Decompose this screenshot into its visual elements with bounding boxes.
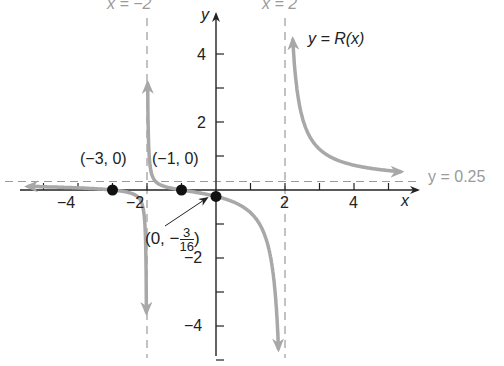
curve-branch [293,40,401,172]
asymptote-label-x-2: x = 2 [262,0,297,13]
x-tick-label-neg2: −2 [126,194,144,212]
curve-branch [148,84,279,349]
data-point [176,185,187,196]
x-tick-label-4: 4 [349,194,358,212]
asymptote-label-x-neg2: x = −2 [107,0,151,13]
rational-function-graph: x = −2 x = 2 y = 0.25 y = R(x) x y −4 −2… [0,0,504,366]
point-label-neg3-0: (−3, 0) [80,150,127,168]
y-tick-label-neg4: −4 [184,317,202,335]
fraction-denominator: 16 [180,240,194,253]
point-label-y-intercept: (0, −316) [145,226,200,253]
point-callout-arrow [165,198,207,226]
y-tick-label-2: 2 [197,114,206,132]
data-point [211,191,222,202]
point-label-neg1-0: (−1, 0) [152,150,199,168]
asymptote-label-y-0-25: y = 0.25 [428,168,485,186]
fraction-numerator: 3 [180,226,194,240]
fraction: 316 [180,226,194,253]
y-axis-label: y [201,6,209,24]
point-label-suffix: ) [194,229,200,248]
point-label-prefix: (0, − [145,229,180,248]
y-tick-label-4: 4 [197,46,206,64]
data-point [107,185,118,196]
x-tick-label-neg4: −4 [57,194,75,212]
x-axis-label: x [401,192,409,210]
x-tick-label-2: 2 [280,194,289,212]
curve-label: y = R(x) [308,30,364,48]
